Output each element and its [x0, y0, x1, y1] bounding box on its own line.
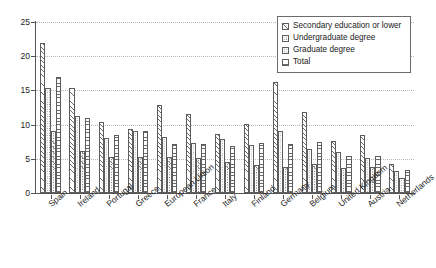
- bar: [259, 143, 264, 193]
- y-axis-tick: [31, 193, 36, 194]
- y-axis-tick-label: 0: [25, 189, 30, 198]
- y-axis-tick-label: 5: [25, 155, 30, 164]
- bar-group: [123, 22, 152, 193]
- bar: [288, 144, 293, 193]
- bar: [317, 142, 322, 193]
- legend-label: Secondary education or lower: [293, 22, 401, 30]
- bar: [114, 135, 119, 193]
- bar-group: [36, 22, 65, 193]
- bar: [230, 146, 235, 193]
- bar-chart: 0510152025 SpainIrelandPortugalGreeceEur…: [0, 0, 436, 268]
- bar-group: [94, 22, 123, 193]
- legend-item: Total: [282, 56, 405, 68]
- legend-swatch-icon: [282, 35, 289, 42]
- y-axis-tick-label: 10: [21, 120, 30, 129]
- legend-label: Total: [293, 58, 310, 66]
- bar: [143, 131, 148, 193]
- bar-group: [152, 22, 181, 193]
- legend-item: Undergraduate degree: [282, 32, 405, 44]
- legend-label: Graduate degree: [293, 46, 355, 54]
- legend-swatch-icon: [282, 47, 289, 54]
- bar: [172, 144, 177, 193]
- y-axis-tick-label: 15: [21, 86, 30, 95]
- legend-item: Secondary education or lower: [282, 20, 405, 32]
- bar: [56, 77, 61, 193]
- y-axis-tick-label: 25: [21, 18, 30, 27]
- legend-label: Undergraduate degree: [293, 34, 375, 42]
- y-axis-tick-label: 20: [21, 52, 30, 61]
- x-axis-label-italy: Italy: [221, 192, 238, 209]
- bar: [85, 118, 90, 193]
- bar-group: [240, 22, 269, 193]
- legend-item: Graduate degree: [282, 44, 405, 56]
- bar-group: [65, 22, 94, 193]
- x-axis-labels: SpainIrelandPortugalGreeceEuropean Union…: [36, 195, 414, 267]
- legend-swatch-icon: [282, 59, 289, 66]
- legend-swatch-icon: [282, 23, 289, 30]
- chart-legend: Secondary education or lowerUndergraduat…: [277, 16, 411, 73]
